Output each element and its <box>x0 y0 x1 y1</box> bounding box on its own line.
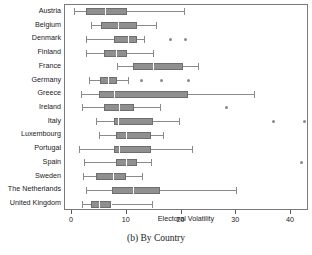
median-line <box>126 159 127 166</box>
upper-whisker <box>126 176 141 177</box>
boxplot-row <box>65 60 307 74</box>
upper-whisker-cap <box>198 63 199 70</box>
outlier-point <box>225 106 228 109</box>
category-label: Ireland <box>0 103 61 111</box>
lower-whisker-cap <box>89 77 90 84</box>
iqr-box <box>96 173 127 180</box>
boxplot-row <box>65 19 307 33</box>
outlier-point <box>300 161 303 164</box>
upper-whisker-cap <box>254 91 255 98</box>
boxplot-row <box>65 5 307 19</box>
category-label: Austria <box>0 7 61 15</box>
category-label: Sweden <box>0 172 61 180</box>
boxplot-row <box>65 197 307 211</box>
boxplot-row <box>65 184 307 198</box>
upper-whisker <box>160 190 237 191</box>
lower-whisker-cap <box>96 118 97 125</box>
outlier-point <box>184 38 187 41</box>
upper-whisker-cap <box>184 8 185 15</box>
upper-whisker <box>151 149 192 150</box>
boxplot-row <box>65 87 307 101</box>
median-line <box>118 22 119 29</box>
outlier-point <box>187 79 190 82</box>
boxplot-row <box>65 156 307 170</box>
category-label: Finland <box>0 48 61 56</box>
category-label: Belgium <box>0 21 61 29</box>
outlier-point <box>272 120 275 123</box>
category-label: France <box>0 62 61 70</box>
boxplot-row <box>65 46 307 60</box>
iqr-box <box>101 22 137 29</box>
category-label: Luxembourg <box>0 130 61 138</box>
median-line <box>105 8 106 15</box>
median-line <box>99 201 100 208</box>
boxplot-row <box>65 74 307 88</box>
lower-whisker-cap <box>91 22 92 29</box>
upper-whisker-cap <box>179 118 180 125</box>
upper-whisker <box>127 11 184 12</box>
lower-whisker <box>82 107 104 108</box>
iqr-box <box>91 201 112 208</box>
lower-whisker <box>86 190 112 191</box>
upper-whisker-cap <box>192 146 193 153</box>
lower-whisker <box>117 66 133 67</box>
median-line <box>108 77 109 84</box>
category-label: Greece <box>0 89 61 97</box>
lower-whisker <box>91 25 101 26</box>
upper-whisker-cap <box>156 22 157 29</box>
lower-whisker <box>83 176 96 177</box>
boxplot-row <box>65 32 307 46</box>
median-line <box>119 104 120 111</box>
category-label: Germany <box>0 76 61 84</box>
iqr-box <box>116 132 151 139</box>
lower-whisker-cap <box>82 201 83 208</box>
boxplot-row <box>65 101 307 115</box>
upper-whisker-cap <box>152 201 153 208</box>
iqr-box <box>112 187 160 194</box>
median-line <box>114 91 115 98</box>
lower-whisker <box>96 121 114 122</box>
iqr-box <box>133 63 183 70</box>
lower-whisker-cap <box>86 50 87 57</box>
median-line <box>116 50 117 57</box>
boxplot-row <box>65 129 307 143</box>
upper-whisker <box>137 162 152 163</box>
upper-whisker-cap <box>142 173 143 180</box>
upper-whisker <box>153 121 179 122</box>
category-axis-labels: AustriaBelgiumDenmarkFinlandFranceGerman… <box>0 4 61 210</box>
upper-whisker <box>112 204 152 205</box>
lower-whisker-cap <box>83 173 84 180</box>
iqr-box <box>114 118 153 125</box>
median-line <box>113 173 114 180</box>
category-label: Spain <box>0 158 61 166</box>
lower-whisker <box>84 162 116 163</box>
upper-whisker <box>183 66 198 67</box>
upper-whisker-cap <box>151 159 152 166</box>
outlier-point <box>140 79 143 82</box>
x-axis-title: Electoral Volatility <box>64 214 308 223</box>
upper-whisker-cap <box>144 36 145 43</box>
upper-whisker <box>134 107 160 108</box>
upper-whisker <box>137 39 144 40</box>
median-line <box>126 132 127 139</box>
lower-whisker <box>86 53 105 54</box>
upper-whisker-cap <box>160 104 161 111</box>
lower-whisker <box>81 94 99 95</box>
iqr-box <box>114 36 137 43</box>
boxplot-row <box>65 142 307 156</box>
upper-whisker <box>151 135 163 136</box>
upper-whisker <box>117 80 128 81</box>
lower-whisker-cap <box>86 187 87 194</box>
lower-whisker <box>99 135 115 136</box>
upper-whisker-cap <box>128 77 129 84</box>
plot-area <box>65 5 307 209</box>
median-line <box>128 36 129 43</box>
boxplot-figure: AustriaBelgiumDenmarkFinlandFranceGerman… <box>0 0 312 255</box>
lower-whisker-cap <box>81 91 82 98</box>
category-label: Italy <box>0 117 61 125</box>
iqr-box <box>99 91 188 98</box>
outlier-point <box>303 120 306 123</box>
lower-whisker-cap <box>117 63 118 70</box>
upper-whisker-cap <box>236 187 237 194</box>
upper-whisker-cap <box>163 132 164 139</box>
